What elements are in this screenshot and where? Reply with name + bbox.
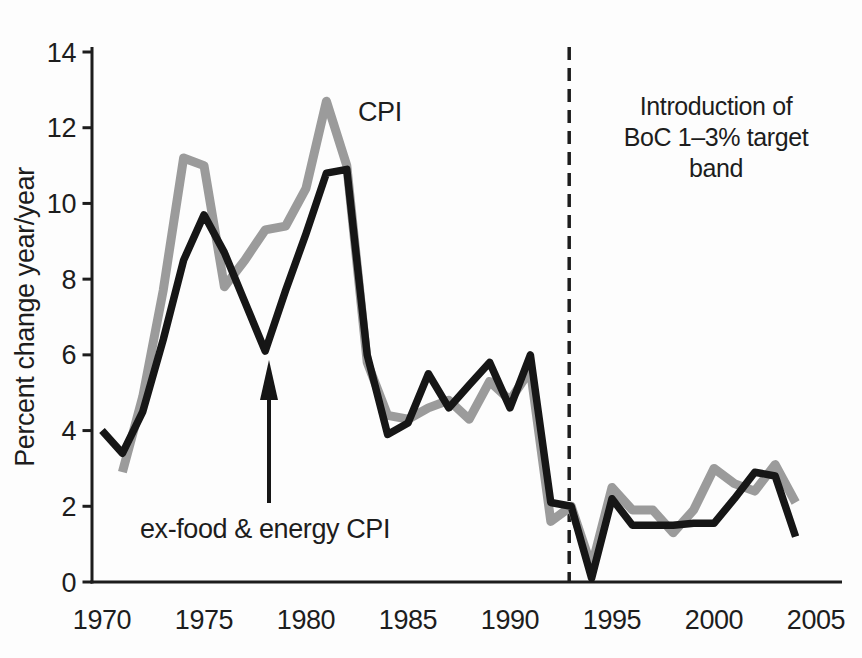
- y-tick-label: 4: [61, 416, 76, 446]
- core-cpi-series-label: ex-food & energy CPI: [140, 514, 390, 544]
- core-cpi-arrow-annotation: [260, 360, 278, 503]
- x-tick-label: 1980: [277, 605, 335, 635]
- x-tick-label: 1985: [379, 605, 437, 635]
- y-axis-ticks: 02468101214: [47, 38, 92, 598]
- cpi-inflation-chart: 02468101214 1970197519801985199019952000…: [0, 0, 862, 658]
- y-tick-label: 2: [61, 492, 76, 522]
- figure-canvas: 02468101214 1970197519801985199019952000…: [0, 0, 862, 658]
- x-axis-labels: 19701975198019851990199520002005: [73, 605, 845, 635]
- y-tick-label: 6: [61, 340, 76, 370]
- annotation-line-3: band: [689, 154, 743, 182]
- x-tick-label: 1970: [73, 605, 131, 635]
- annotation-line-2: BoC 1–3% target: [624, 123, 809, 151]
- cpi-series-label: CPI: [358, 97, 402, 127]
- annotation-line-1: Introduction of: [640, 92, 793, 120]
- y-tick-label: 8: [61, 265, 76, 295]
- y-tick-label: 14: [47, 38, 77, 68]
- arrow-up-icon: [260, 360, 278, 400]
- x-tick-label: 2005: [787, 605, 845, 635]
- x-tick-label: 1975: [175, 605, 233, 635]
- x-tick-label: 2000: [685, 605, 743, 635]
- x-tick-label: 1995: [583, 605, 641, 635]
- y-tick-label: 12: [47, 113, 76, 143]
- y-tick-label: 0: [61, 568, 76, 598]
- y-tick-label: 10: [47, 189, 76, 219]
- target-band-annotation: Introduction of BoC 1–3% target band: [624, 92, 809, 182]
- y-axis-title: Percent change year/year: [10, 167, 40, 467]
- x-tick-label: 1990: [481, 605, 539, 635]
